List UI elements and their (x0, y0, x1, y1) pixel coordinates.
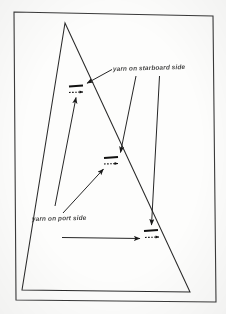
leader-starboard-to-upper-tuft (87, 70, 112, 84)
leader-starboard-to-middle-tuft (121, 76, 137, 153)
leader-port-to-upper-tuft (55, 98, 76, 207)
diagram-vector-layer (0, 0, 226, 314)
yarn-tuft-upper (69, 86, 83, 94)
diagram-canvas: yarn on starboard side yarn on port side (0, 0, 226, 314)
yarn-tuft-middle (104, 157, 118, 165)
label-yarn-on-port-side: yarn on port side (32, 214, 87, 222)
leader-port-to-lower-tuft (62, 238, 140, 239)
leader-port-to-middle-tuft (63, 169, 104, 213)
leader-starboard-to-lower-tuft (152, 76, 160, 225)
yarn-tuft-lower (144, 230, 159, 238)
